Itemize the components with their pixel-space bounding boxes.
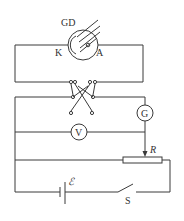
voltmeter-label: V	[75, 127, 83, 138]
galvanometer-label: G	[141, 108, 148, 119]
switch[interactable]: S	[118, 184, 133, 206]
rheostat[interactable]: R	[123, 144, 162, 163]
photocell: GD K A	[55, 17, 104, 60]
slider-arrow-icon	[143, 151, 148, 157]
battery-label: ℰ	[68, 176, 75, 187]
photocell-loop	[15, 45, 143, 82]
measurement-branch	[15, 97, 145, 192]
anode-label: A	[96, 47, 104, 58]
photocell-label: GD	[61, 17, 75, 28]
battery: ℰ	[60, 176, 75, 204]
switch-label: S	[125, 195, 131, 206]
rheostat-label: R	[149, 144, 156, 155]
reversing-switch[interactable]	[69, 80, 96, 114]
galvanometer: G	[137, 105, 153, 121]
circuit-diagram: GD K A G V	[0, 0, 184, 221]
cathode-label: K	[55, 47, 63, 58]
voltmeter: V	[71, 124, 87, 140]
